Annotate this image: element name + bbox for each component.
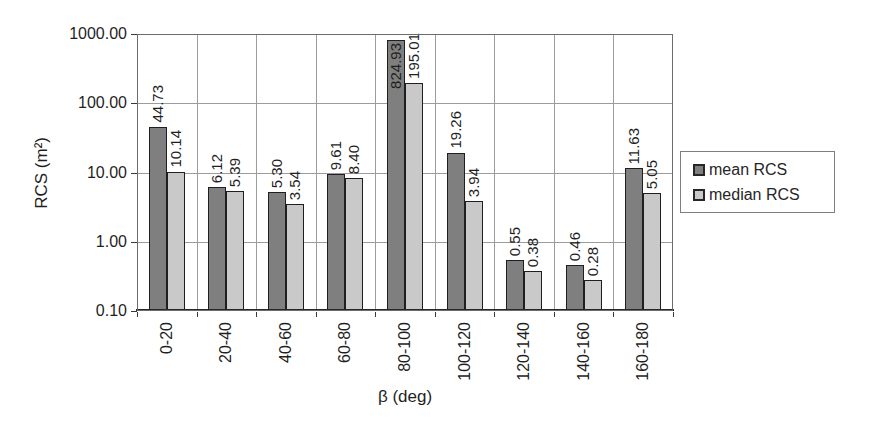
x-tick-mark xyxy=(137,312,138,317)
x-tick-label: 80-100 xyxy=(396,322,414,372)
x-tick-mark xyxy=(554,312,555,317)
x-tick-mark xyxy=(316,312,317,317)
x-tick-mark xyxy=(613,312,614,317)
x-tick-label: 140-160 xyxy=(575,322,593,381)
x-tick-mark xyxy=(435,312,436,317)
y-tick-label: 100.00 xyxy=(0,94,127,112)
x-tick-label: 0-20 xyxy=(158,322,176,354)
plot-border xyxy=(137,34,673,311)
y-tick-label: 10.00 xyxy=(0,164,127,182)
x-tick-label: 40-60 xyxy=(277,322,295,363)
x-tick-label: 60-80 xyxy=(336,322,354,363)
x-axis-title: β (deg) xyxy=(137,387,673,407)
legend-swatch-mean-icon xyxy=(693,164,705,176)
y-tick-label: 1.00 xyxy=(0,233,127,251)
legend-label-median: median RCS xyxy=(709,186,800,203)
y-tick-label: 0.10 xyxy=(0,302,127,320)
y-tick-label: 1000.00 xyxy=(0,25,127,43)
x-tick-label: 100-120 xyxy=(456,322,474,381)
x-tick-mark xyxy=(375,312,376,317)
legend-entry-median: median RCS xyxy=(693,186,834,203)
x-tick-mark xyxy=(256,312,257,317)
legend-label-mean: mean RCS xyxy=(709,161,787,178)
x-tick-mark xyxy=(673,312,674,317)
x-tick-label: 20-40 xyxy=(217,322,235,363)
x-tick-mark xyxy=(494,312,495,317)
x-tick-label: 160-180 xyxy=(634,322,652,381)
rcs-bar-chart-figure: RCS (m²) 1000.00100.0010.001.000.1044.73… xyxy=(0,0,872,435)
legend-swatch-median-icon xyxy=(693,189,705,201)
x-tick-mark xyxy=(197,312,198,317)
legend: mean RCS median RCS xyxy=(680,151,835,213)
x-tick-label: 120-140 xyxy=(515,322,533,381)
legend-entry-mean: mean RCS xyxy=(693,161,834,178)
